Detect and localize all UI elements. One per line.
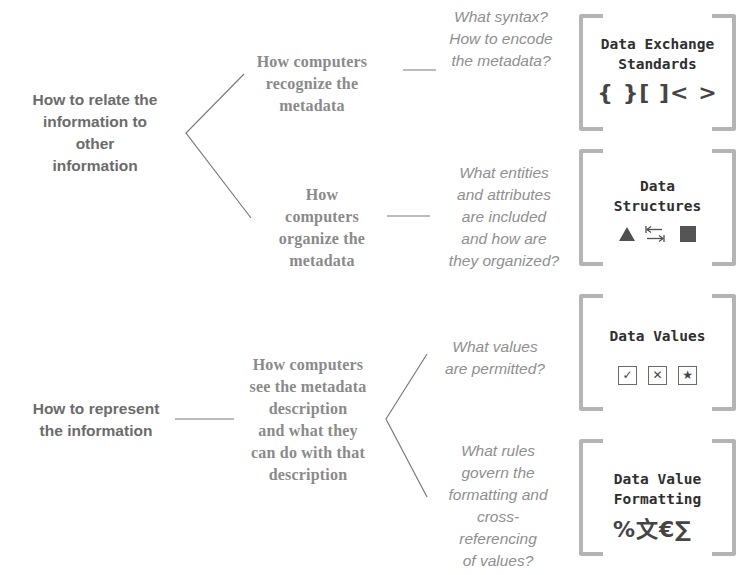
text-line: and how are [436, 228, 572, 250]
text-line: formatting and [436, 484, 560, 506]
checkbox-star-icon: ★ [678, 366, 697, 385]
mid-organize-metadata: How computers organize the metadata [262, 184, 382, 272]
text-line: How [262, 184, 382, 206]
text-line: and what they [236, 420, 380, 442]
text-line: description [236, 464, 380, 486]
text-line: What values [430, 336, 560, 358]
text-line: govern the [436, 462, 560, 484]
text-line: cross- [436, 506, 560, 528]
box-title: Data Values [579, 326, 736, 346]
text-line: they organized? [436, 250, 572, 272]
text-line: can do with that [236, 442, 380, 464]
triangle-icon [618, 226, 636, 242]
box-data-structures: Data Structures [579, 149, 736, 266]
text-line: What syntax? [436, 6, 566, 28]
fork-connector-1 [186, 74, 251, 218]
text-line: How computers [246, 51, 378, 73]
tab-arrows-icon [644, 224, 666, 244]
structure-icons [579, 223, 736, 244]
box-data-values: Data Values ✓ ✕ ★ [579, 294, 736, 411]
text-line: What rules [436, 440, 560, 462]
root-represent-information: How to represent the information [16, 398, 176, 442]
text-line: How to represent [16, 398, 176, 420]
text-line: metadata [262, 250, 382, 272]
right-bracket [712, 294, 736, 411]
text-line: are included [436, 206, 572, 228]
text-line: other [20, 133, 170, 155]
text-line: and attributes [436, 184, 572, 206]
checkbox-x-icon: ✕ [648, 366, 667, 385]
mid-see-metadata-description: How computers see the metadata descripti… [236, 354, 380, 486]
mid-recognize-metadata: How computers recognize the metadata [246, 51, 378, 117]
text-line: How to encode [436, 28, 566, 50]
text-line: see the metadata [236, 376, 380, 398]
fork-connector-2 [386, 354, 427, 497]
filled-square-icon [679, 225, 697, 243]
box-data-exchange-standards: Data Exchange Standards { }[ ]< > [579, 14, 736, 131]
text-line: information [20, 155, 170, 177]
text-line: of values? [436, 550, 560, 572]
text-line: referencing [436, 528, 560, 550]
metadata-diagram: How to relate the information to other i… [0, 0, 756, 575]
text-line: are permitted? [430, 358, 560, 380]
box-data-value-formatting: Data Value Formatting %文€∑ [579, 439, 736, 556]
root-relate-information: How to relate the information to other i… [20, 89, 170, 177]
value-icons: ✓ ✕ ★ [579, 365, 736, 385]
question-entities: What entities and attributes are include… [436, 162, 572, 272]
left-bracket [579, 294, 603, 411]
text-line: metadata [246, 95, 378, 117]
box-title: Data Value Formatting [579, 469, 736, 509]
text-line: organize the [262, 228, 382, 250]
formatting-symbols-icon: %文€∑ [569, 511, 736, 543]
text-line: How computers [236, 354, 380, 376]
text-line: the metadata? [436, 50, 566, 72]
question-syntax: What syntax? How to encode the metadata? [436, 6, 566, 72]
question-formatting-rules: What rules govern the formatting and cro… [436, 440, 560, 572]
box-title: Data Exchange Standards [579, 34, 736, 74]
text-line: recognize the [246, 73, 378, 95]
text-line: computers [262, 206, 382, 228]
text-line: What entities [436, 162, 572, 184]
text-line: How to relate the [20, 89, 170, 111]
text-line: the information [16, 420, 176, 442]
syntax-brackets-icon: { }[ ]< > [579, 80, 736, 105]
checkbox-check-icon: ✓ [618, 366, 637, 385]
text-line: information to [20, 111, 170, 133]
text-line: description [236, 398, 380, 420]
box-title: Data Structures [579, 176, 736, 216]
question-values-permitted: What values are permitted? [430, 336, 560, 380]
